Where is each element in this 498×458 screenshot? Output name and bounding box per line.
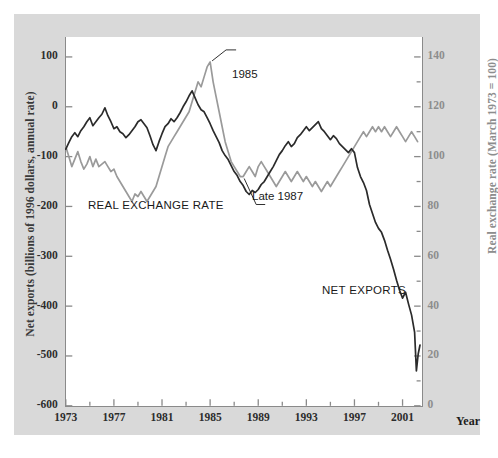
x-tick-7: 2001 xyxy=(378,411,428,423)
x-tick-3: 1985 xyxy=(185,411,235,423)
y-axis-right-title: Real exchange rate (March 1973 = 100) xyxy=(486,0,498,351)
y-tick-left-4: -300 xyxy=(18,249,58,261)
annotation-late-1987: Late 1987 xyxy=(252,190,303,202)
y-tick-right-4: 60 xyxy=(428,249,468,261)
x-tick-5: 1993 xyxy=(281,411,331,423)
y-tick-left-1: 0 xyxy=(18,99,58,111)
y-tick-right-0: 140 xyxy=(428,49,468,61)
y-tick-right-7: 0 xyxy=(428,398,468,410)
y-tick-right-6: 20 xyxy=(428,348,468,360)
y-tick-left-2: -100 xyxy=(18,149,58,161)
x-tick-1: 1977 xyxy=(89,411,139,423)
x-tick-0: 1973 xyxy=(41,411,91,423)
y-tick-left-6: -500 xyxy=(18,348,58,360)
y-tick-left-7: -600 xyxy=(18,398,58,410)
y-tick-right-3: 80 xyxy=(428,199,468,211)
leader-line-1985 xyxy=(212,50,236,61)
line-real-exchange-rate xyxy=(66,62,418,202)
x-axis-title: Year xyxy=(456,414,480,429)
axis-ticks xyxy=(66,57,421,406)
y-tick-right-5: 40 xyxy=(428,299,468,311)
series-label-net-exports: NET EXPORTS xyxy=(322,284,406,296)
x-tick-6: 1997 xyxy=(329,411,379,423)
line-net-exports xyxy=(66,91,420,371)
annotation-1985: 1985 xyxy=(232,68,258,80)
y-tick-left-0: 100 xyxy=(18,49,58,61)
y-tick-left-5: -400 xyxy=(18,299,58,311)
x-tick-2: 1981 xyxy=(137,411,187,423)
y-tick-right-2: 100 xyxy=(428,149,468,161)
y-tick-left-3: -200 xyxy=(18,199,58,211)
y-tick-right-1: 120 xyxy=(428,99,468,111)
x-tick-4: 1989 xyxy=(233,411,283,423)
series-label-real-exchange-rate: REAL EXCHANGE RATE xyxy=(88,199,224,211)
